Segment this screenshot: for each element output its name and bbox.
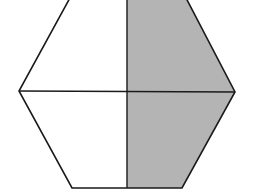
hexagon-diagram: [0, 0, 257, 189]
shaded-right-half: [127, 0, 235, 188]
